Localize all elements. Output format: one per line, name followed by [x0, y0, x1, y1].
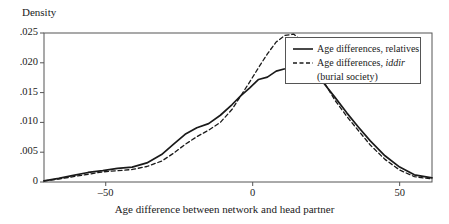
y-tick-label: .010	[0, 115, 38, 126]
chart-legend: Age differences, relatives Age differenc…	[285, 37, 421, 84]
x-tick-label: –50	[86, 187, 126, 198]
legend-solid-line-icon	[291, 42, 317, 56]
y-tick-label: .005	[0, 145, 38, 156]
x-tick-label: 0	[233, 187, 273, 198]
legend-dashed-line-icon	[291, 56, 317, 70]
legend-label-iddir: Age differences, iddir	[317, 56, 405, 70]
legend-item-iddir: Age differences, iddir	[291, 56, 415, 70]
y-tick-label: 0	[0, 175, 38, 186]
x-tick-label: 50	[380, 187, 420, 198]
legend-label-iddir-continuation: (burial society)	[291, 70, 415, 84]
x-axis-title: Age difference between network and head …	[0, 203, 449, 215]
y-tick-label: .025	[0, 26, 38, 37]
legend-item-relatives: Age differences, relatives	[291, 42, 415, 56]
chart-figure: Density 0.005.010.015.020.025 –50050 Age…	[0, 0, 449, 224]
y-tick-label: .015	[0, 86, 38, 97]
y-tick-label: .020	[0, 56, 38, 67]
legend-label-relatives: Age differences, relatives	[317, 42, 419, 56]
